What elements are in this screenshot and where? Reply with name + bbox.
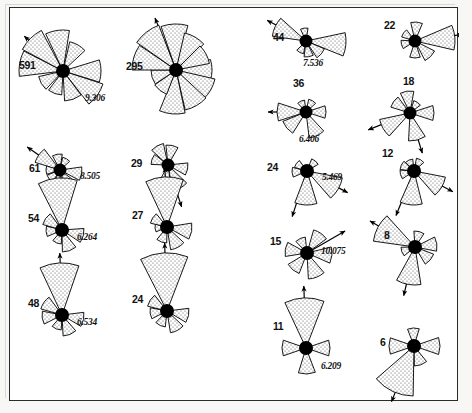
rose-count-label: 48 <box>28 297 39 309</box>
rose-count-label: 27 <box>132 209 143 221</box>
rose-count-label: 11 <box>273 320 283 332</box>
rose-value-label: 10.075 <box>321 246 345 256</box>
rose-count-label: 6 <box>380 336 385 348</box>
rose-value-label: 6.209 <box>321 361 341 371</box>
rose-count-label: 36 <box>293 77 304 89</box>
rose-value-label: 9.306 <box>85 93 105 103</box>
rose-count-label: 18 <box>403 75 414 87</box>
rose-value-label: 6.534 <box>77 317 97 327</box>
rose-12 <box>396 158 453 215</box>
rose-value-label: 8.505 <box>80 171 100 181</box>
rose-hub <box>160 220 174 234</box>
rose-count-label: 15 <box>270 235 281 247</box>
rose-hub <box>409 35 422 48</box>
rose-count-label: 24 <box>132 293 143 305</box>
rose-hub <box>407 339 421 353</box>
rose-count-label: 61 <box>29 162 40 174</box>
rose-diagram-figure: 5919.306295447.53622618.50529366.4061854… <box>0 0 472 413</box>
rose-hub <box>408 240 422 254</box>
rose-hub <box>300 164 314 178</box>
rose-hub <box>55 308 69 322</box>
rose-hub <box>300 106 313 119</box>
rose-hub <box>407 164 421 178</box>
figure-plate: 5919.306295447.53622618.50529366.4061854… <box>9 7 458 401</box>
rose-count-label: 24 <box>267 161 278 173</box>
rose-count-label: 295 <box>126 60 142 72</box>
rose-count-label: 22 <box>384 19 395 31</box>
rose-24 <box>292 159 348 217</box>
rose-hub <box>299 341 313 355</box>
rose-18 <box>368 91 434 153</box>
rose-hub <box>160 304 174 318</box>
rose-hub <box>162 159 175 172</box>
rose-canvas <box>10 8 459 402</box>
rose-count-label: 8 <box>384 229 389 241</box>
rose-petal <box>285 298 324 348</box>
rose-count-label: 54 <box>28 212 39 224</box>
rose-hub <box>300 35 313 48</box>
rose-value-label: 6.406 <box>299 134 319 144</box>
rose-value-label: 5.469 <box>322 172 342 182</box>
rose-36 <box>268 99 326 138</box>
rose-hub <box>56 64 70 78</box>
rose-24 <box>141 243 189 333</box>
rose-value-label: 7.536 <box>303 58 323 68</box>
rose-count-label: 29 <box>131 157 142 169</box>
rose-hub <box>169 63 183 77</box>
rose-count-label: 12 <box>382 147 393 159</box>
rose-hub <box>300 246 314 260</box>
rose-hub <box>55 223 69 237</box>
rose-count-label: 44 <box>273 31 284 43</box>
rose-petal <box>373 216 415 247</box>
rose-22 <box>401 22 459 61</box>
rose-8 <box>370 216 437 296</box>
rose-hub <box>404 107 417 120</box>
rose-295 <box>132 18 215 114</box>
rose-6 <box>376 328 440 402</box>
rose-petal <box>376 346 414 396</box>
rose-27 <box>146 167 192 250</box>
rose-petal <box>141 253 188 311</box>
rose-value-label: 6.264 <box>77 232 97 242</box>
rose-count-label: 591 <box>19 59 35 71</box>
